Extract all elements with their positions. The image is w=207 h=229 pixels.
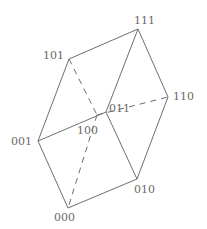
vertex-label-001: 001 (11, 135, 32, 148)
vertex-labels: 000001010011100101110111 (11, 14, 194, 224)
edge-000-010 (68, 179, 137, 208)
edge-111-011 (106, 29, 138, 112)
edge-111-110 (138, 29, 168, 97)
vertex-label-011: 011 (109, 102, 130, 115)
vertex-label-010: 010 (134, 183, 155, 196)
edge-100-110-hidden (97, 97, 168, 115)
edge-110-010 (137, 97, 168, 179)
cube-diagram: 000001010011100101110111 (0, 0, 207, 229)
vertex-label-100: 100 (77, 124, 98, 137)
edge-011-010 (106, 112, 137, 179)
vertex-label-111: 111 (134, 14, 155, 27)
vertex-label-000: 000 (54, 211, 75, 224)
vertex-label-101: 101 (43, 49, 64, 62)
edge-101-100-hidden (69, 59, 97, 115)
edge-001-000 (38, 141, 68, 208)
edge-101-001 (38, 59, 69, 141)
vertex-label-110: 110 (173, 90, 194, 103)
